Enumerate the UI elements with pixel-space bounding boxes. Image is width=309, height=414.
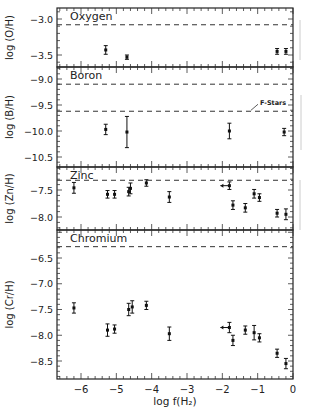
y-tick-label: −8.5	[30, 356, 53, 367]
data-point	[257, 334, 261, 342]
panel-oxygen: −3.0−3.5log (O/H)Oxygen	[4, 8, 293, 67]
data-point	[104, 46, 108, 55]
data-point	[106, 324, 110, 336]
x-tick-label: −3	[180, 384, 195, 395]
y-axis-label: log (O/H)	[4, 15, 15, 60]
arrow-left-icon	[220, 184, 223, 188]
panel-title: Zinc	[70, 169, 94, 182]
data-point	[257, 194, 261, 202]
data-point	[72, 182, 76, 193]
panel-frame	[57, 230, 293, 379]
f-stars-annotation: F-Stars	[260, 99, 286, 107]
panel-title: Boron	[70, 69, 102, 82]
data-point	[252, 325, 256, 339]
panel-zinc: −7.5−8.0log (Zn/H)Zinc	[4, 167, 293, 230]
y-tick-label: −8.0	[30, 212, 53, 223]
data-point	[227, 123, 231, 139]
data-point	[284, 209, 288, 220]
x-tick-label: −6	[74, 384, 89, 395]
y-tick-label: −6.5	[30, 253, 53, 264]
data-point	[127, 303, 131, 315]
data-point	[72, 303, 76, 313]
x-tick-label: −2	[215, 384, 230, 395]
y-axis-label: log (B/H)	[4, 95, 15, 139]
panel-title: Chromium	[70, 232, 127, 245]
data-point	[243, 326, 247, 334]
y-tick-label: −10.5	[24, 152, 53, 163]
x-axis-label: log f(H₂)	[153, 395, 196, 407]
data-point	[243, 204, 247, 213]
data-point	[220, 322, 231, 332]
panel-frame	[57, 67, 293, 167]
data-point	[106, 191, 110, 199]
data-point	[284, 358, 288, 368]
y-tick-label: −7.5	[30, 304, 53, 315]
panel-chromium: −6.5−7.0−7.5−8.0−8.5log (Cr/H)Chromium	[4, 230, 293, 379]
data-point	[275, 349, 279, 357]
data-point	[231, 335, 235, 345]
data-point	[125, 116, 129, 147]
data-point	[167, 327, 171, 340]
x-tick-label: −5	[109, 384, 124, 395]
abundance-figure: −3.0−3.5log (O/H)Oxygen−9.0−9.5−10.0−10.…	[0, 0, 309, 414]
data-point	[282, 128, 286, 135]
panel-boron: −9.0−9.5−10.0−10.5log (B/H)BoronF-Stars	[4, 67, 293, 167]
data-point	[275, 49, 279, 55]
y-axis-label: log (Cr/H)	[4, 280, 15, 328]
data-point	[144, 301, 148, 309]
y-tick-label: −9.0	[30, 74, 53, 85]
data-point	[125, 55, 129, 59]
y-tick-label: −7.5	[30, 185, 53, 196]
y-tick-label: −7.0	[30, 278, 53, 289]
x-tick-label: −1	[250, 384, 265, 395]
x-tick-label: 0	[290, 384, 296, 395]
y-tick-label: −3.5	[30, 50, 53, 61]
data-point	[284, 49, 288, 55]
data-point	[231, 201, 235, 210]
data-point	[113, 191, 117, 199]
y-tick-label: −10.0	[24, 126, 53, 137]
data-point	[113, 325, 117, 333]
panel-title: Oxygen	[70, 10, 112, 23]
data-point	[104, 124, 108, 134]
y-tick-label: −9.5	[30, 100, 53, 111]
data-point	[220, 182, 231, 190]
data-point	[252, 189, 256, 198]
y-tick-label: −8.0	[30, 330, 53, 341]
x-tick-label: −4	[144, 384, 159, 395]
y-axis-label: log (Zn/H)	[4, 173, 15, 223]
data-point	[130, 301, 134, 313]
arrow-left-icon	[220, 326, 223, 330]
data-point	[167, 192, 171, 203]
y-tick-label: −3.0	[30, 14, 53, 25]
data-point	[275, 209, 279, 217]
